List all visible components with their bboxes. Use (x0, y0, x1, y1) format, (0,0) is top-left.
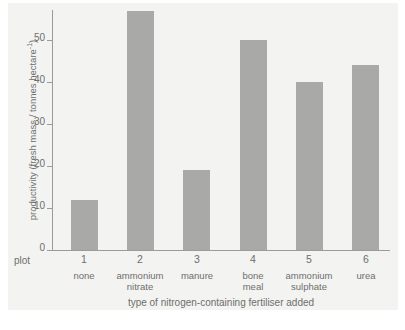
y-tick-mark (47, 250, 52, 251)
x-category-number: 1 (56, 253, 112, 266)
x-axis-category-labels: 1none2ammoniumnitrate3manure4bonemeal5am… (52, 253, 390, 301)
y-tick-label: 30 (34, 116, 45, 127)
y-tick-mark (47, 166, 52, 167)
y-tick-mark (47, 40, 52, 41)
y-tick-label: 40 (34, 74, 45, 85)
plot-row-label: plot (14, 255, 30, 267)
x-category-number: 3 (169, 253, 225, 266)
y-tick-label: 50 (34, 32, 45, 43)
x-axis-title: type of nitrogen-containing fertiliser a… (52, 297, 390, 309)
plot-area: 50403020100 (52, 10, 390, 250)
x-category-name: manure (169, 270, 225, 281)
bar (71, 200, 98, 250)
bar (127, 11, 154, 250)
y-axis-title-exponent: -1 (26, 43, 33, 49)
x-category-name: ammoniumsulphate (281, 270, 337, 292)
x-category-4: 4bonemeal (225, 253, 281, 292)
x-category-name: none (56, 270, 112, 281)
x-category-5: 5ammoniumsulphate (281, 253, 337, 292)
bar (240, 40, 267, 250)
y-tick-mark (47, 124, 52, 125)
x-category-number: 4 (225, 253, 281, 266)
y-tick-label: 0 (39, 242, 45, 253)
x-category-number: 5 (281, 253, 337, 266)
x-category-number: 6 (338, 253, 394, 266)
bar (352, 65, 379, 250)
y-tick-label: 20 (34, 158, 45, 169)
y-tick-mark (47, 82, 52, 83)
y-tick-mark (47, 208, 52, 209)
x-category-name: bonemeal (225, 270, 281, 292)
bar (183, 170, 210, 250)
x-category-number: 2 (112, 253, 168, 266)
x-category-1: 1none (56, 253, 112, 281)
bar-chart-figure: productivity (fresh mass / tonnes hectar… (0, 0, 405, 330)
x-category-name: urea (338, 270, 394, 281)
y-axis-title: productivity (fresh mass / tonnes hectar… (22, 10, 38, 250)
x-axis-line (52, 250, 390, 251)
y-axis-line (52, 10, 53, 251)
y-tick-label: 10 (34, 200, 45, 211)
x-category-2: 2ammoniumnitrate (112, 253, 168, 292)
x-category-3: 3manure (169, 253, 225, 281)
x-category-name: ammoniumnitrate (112, 270, 168, 292)
x-category-6: 6urea (338, 253, 394, 281)
bar (296, 82, 323, 250)
